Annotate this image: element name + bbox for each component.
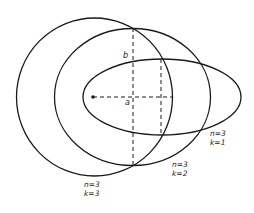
orbit-k2-k-label: k=2 — [172, 169, 188, 178]
orbit-k1-ellipse — [83, 59, 241, 135]
orbit-k1-label: n=3 k=1 — [210, 129, 226, 147]
orbit-diagram: b a n=3 k=1 n=3 k=2 n=3 k=3 — [0, 0, 254, 213]
orbit-k3-label: n=3 k=3 — [84, 180, 100, 198]
orbit-k3-k-label: k=3 — [84, 189, 100, 198]
orbit-k1-n-label: n=3 — [210, 129, 226, 138]
orbit-k2-n-label: n=3 — [172, 160, 188, 169]
orbit-k1-k-label: k=1 — [210, 138, 226, 147]
orbit-k2-label: n=3 k=2 — [172, 160, 188, 178]
semi-minor-axis-label: b — [123, 51, 128, 60]
orbit-k3-n-label: n=3 — [84, 180, 100, 189]
nucleus-dot — [91, 95, 95, 99]
semi-major-axis-label: a — [125, 98, 130, 107]
